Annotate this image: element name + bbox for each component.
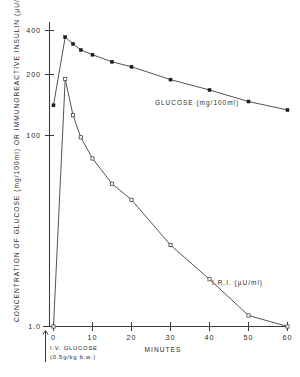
x-tick-label-20: 20 — [127, 333, 137, 342]
iri-series-label: I.R.I. (µU/ml) — [212, 279, 263, 287]
data-point-marker — [52, 325, 55, 328]
x-tick-label-0: 0 — [51, 333, 56, 342]
data-point-marker — [71, 114, 74, 117]
injection-label-line2: (0.5g/kg b.w.) — [50, 354, 96, 360]
data-point-marker — [79, 48, 82, 51]
series-iri — [52, 77, 289, 328]
x-tick-label-50: 50 — [244, 333, 254, 342]
iri-curve — [54, 79, 288, 327]
data-point-marker — [247, 100, 250, 103]
data-point-marker — [52, 104, 55, 107]
y-axis-title: CONCENTRATION OF GLUCOSE (mg/100ml) OR I… — [13, 0, 21, 322]
data-point-marker — [286, 325, 289, 328]
data-point-marker — [169, 78, 172, 81]
data-point-marker — [72, 42, 75, 45]
data-point-marker — [286, 109, 289, 112]
injection-arrow-icon — [43, 331, 48, 362]
y-tick-label-400: 400 — [26, 26, 41, 35]
y-tick-label-200: 200 — [26, 70, 41, 79]
glucose-series-label: GLUCOSE (mg/100ml) — [155, 99, 239, 107]
y-tick-label-100: 100 — [26, 131, 41, 140]
x-tick-label-10: 10 — [88, 333, 98, 342]
data-point-marker — [91, 157, 94, 160]
x-tick-label-30: 30 — [166, 333, 176, 342]
x-tick-label-60: 60 — [283, 333, 293, 342]
data-point-marker — [130, 65, 133, 68]
iri-marker-group — [52, 77, 289, 328]
data-point-marker — [110, 182, 113, 185]
data-point-marker — [169, 243, 172, 246]
data-point-marker — [130, 198, 133, 201]
figure-container: CONCENTRATION OF GLUCOSE (mg/100ml) OR I… — [0, 0, 300, 377]
chart-svg: CONCENTRATION OF GLUCOSE (mg/100ml) OR I… — [0, 0, 300, 377]
data-point-marker — [64, 36, 67, 39]
data-point-marker — [111, 60, 114, 63]
data-point-marker — [208, 88, 211, 91]
x-tick-label-40: 40 — [205, 333, 215, 342]
data-point-marker — [79, 136, 82, 139]
data-point-marker — [91, 53, 94, 56]
data-point-marker — [247, 314, 250, 317]
injection-label-line1: I.V. GLUCOSE — [50, 345, 98, 351]
data-point-marker — [208, 278, 211, 281]
x-axis-title: MINUTES — [144, 346, 181, 353]
data-point-marker — [64, 77, 67, 80]
y-tick-label-1: 1.0 — [28, 322, 41, 331]
